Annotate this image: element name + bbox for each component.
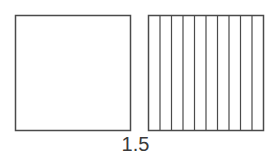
tenths-square bbox=[149, 16, 264, 131]
whole-square bbox=[16, 16, 131, 131]
decimal-caption: 1.5 bbox=[0, 133, 271, 155]
